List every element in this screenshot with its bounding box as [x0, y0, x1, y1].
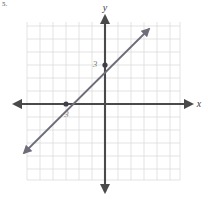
y-intercept-point [102, 62, 107, 67]
graph-svg: 3 -3 x y [0, 0, 208, 202]
x-intercept-label: -3 [61, 109, 69, 119]
coordinate-plane-figure: 5. [0, 0, 208, 202]
y-intercept-label: 3 [92, 59, 98, 69]
x-axis-label: x [196, 98, 202, 109]
problem-number-label: 5. [2, 0, 7, 8]
x-intercept-point [63, 101, 68, 106]
y-axis-label: y [102, 2, 108, 13]
point-markers [63, 62, 107, 106]
grid-lines [27, 22, 180, 180]
axes [14, 16, 192, 192]
